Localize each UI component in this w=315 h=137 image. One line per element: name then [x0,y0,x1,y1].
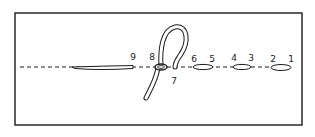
point-label-1: 1 [288,55,294,64]
point-label-5: 5 [209,55,215,64]
thread-wrap-ring [155,64,167,70]
point-label-3: 3 [248,54,254,63]
stitch-diagram [0,0,315,137]
thread-tail-inner [146,68,158,98]
point-label-9: 9 [130,53,136,62]
point-label-4: 4 [231,54,237,63]
point-label-7: 7 [171,77,177,86]
stitch-4-3 [233,64,251,69]
laid-thread [72,66,133,70]
point-label-8: 8 [149,53,155,62]
stitch-2-1 [271,65,291,71]
stitch-6-5 [193,64,213,69]
thread-loop [161,27,186,67]
point-label-2: 2 [270,55,276,64]
point-label-6: 6 [191,55,197,64]
